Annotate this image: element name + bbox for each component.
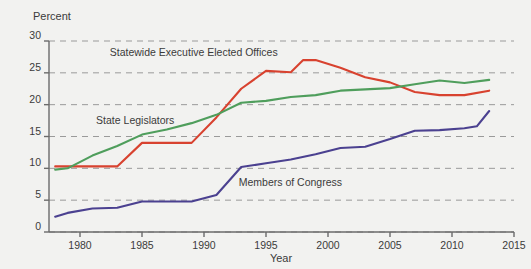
y-tick-label-0: 0	[35, 220, 41, 232]
y-tick-label-10: 10	[29, 156, 41, 168]
x-axis-title: Year	[270, 252, 293, 264]
y-tick-label-25: 25	[29, 61, 41, 73]
y-axis-title: Percent	[33, 10, 71, 22]
y-tick-label-20: 20	[29, 93, 41, 105]
x-tick-label-1995: 1995	[254, 239, 278, 251]
x-tick-label-1990: 1990	[192, 239, 216, 251]
y-tick-label-15: 15	[29, 125, 41, 137]
x-tick-label-1985: 1985	[130, 239, 154, 251]
x-tick-label-1980: 1980	[68, 239, 92, 251]
x-tick-label-2005: 2005	[378, 239, 402, 251]
x-tick-label-2010: 2010	[440, 239, 464, 251]
y-tick-label-30: 30	[29, 29, 41, 41]
chart-background	[0, 0, 531, 269]
chart-figure: Percent 051015202530 1980198519901995200…	[0, 0, 531, 269]
series-label-2: Members of Congress	[239, 176, 342, 188]
y-tick-label-5: 5	[35, 188, 41, 200]
x-tick-label-2015: 2015	[502, 239, 526, 251]
series-label-0: Statewide Executive Elected Offices	[110, 46, 278, 58]
series-label-1: State Legislators	[96, 114, 174, 126]
x-tick-label-2000: 2000	[316, 239, 340, 251]
line-chart: Percent 051015202530 1980198519901995200…	[0, 0, 531, 269]
